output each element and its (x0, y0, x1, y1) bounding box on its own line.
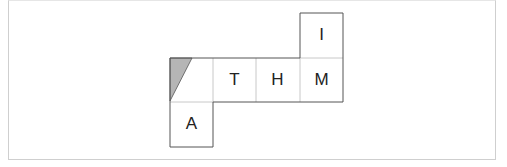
face-m-label: M (300, 58, 343, 102)
face-a-label: A (170, 102, 213, 146)
shaded-triangle (170, 58, 192, 101)
face-t-label: T (213, 58, 256, 102)
face-i-label: I (300, 13, 343, 57)
face-h-label: H (256, 58, 299, 102)
